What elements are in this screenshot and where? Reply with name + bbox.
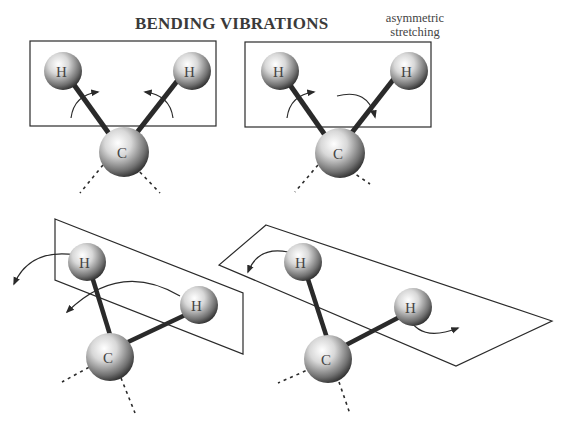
h-label: H: [56, 64, 67, 80]
h-label: H: [79, 255, 90, 271]
c-label: C: [333, 146, 343, 162]
c-label: C: [103, 350, 113, 366]
c-label: C: [321, 352, 331, 368]
h-label: H: [191, 298, 202, 314]
out-of-plane-arrow-top: [248, 251, 288, 272]
dashed-bond-down: [339, 382, 350, 414]
h-label: H: [405, 300, 416, 316]
molecular-plane: [219, 225, 552, 366]
h-label: H: [273, 64, 284, 80]
out-of-plane-arrow-top: [14, 254, 76, 284]
h-label: H: [401, 64, 412, 80]
panel-wagging: [14, 219, 243, 413]
panel-twisting: [219, 225, 552, 414]
bond-c-h-top: [90, 270, 111, 338]
dashed-bond-left: [295, 165, 318, 192]
h-label: H: [184, 64, 195, 80]
ch2-vibration-diagram: BENDING VIBRATIONS asymmetric stretching: [0, 0, 565, 429]
dashed-bond-down: [121, 378, 135, 413]
h-label: H: [295, 255, 306, 271]
c-label: C: [117, 145, 127, 161]
bond-c-h-right: [350, 71, 400, 135]
dashed-bond-left: [80, 165, 103, 193]
